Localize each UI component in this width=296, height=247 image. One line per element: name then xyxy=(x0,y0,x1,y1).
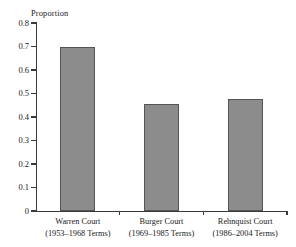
category-terms: (1953–1968 Terms) xyxy=(36,228,120,240)
x-axis-tick xyxy=(119,211,120,215)
x-axis-tick xyxy=(286,211,287,215)
x-axis-tick xyxy=(203,211,204,215)
bar xyxy=(228,99,263,211)
y-axis-tick xyxy=(31,116,36,117)
y-axis-tick xyxy=(31,46,36,47)
y-axis-tick-label: 0.5 xyxy=(3,89,29,98)
category-name: Warren Court xyxy=(36,216,120,228)
bar xyxy=(60,47,95,212)
x-axis-category-label: Rehnquist Court(1986–2004 Terms) xyxy=(203,216,287,239)
y-axis-tick-label: 0.1 xyxy=(3,183,29,192)
y-axis-tick-label: 0.7 xyxy=(3,42,29,51)
y-axis-tick-label: 0.8 xyxy=(3,19,29,28)
category-terms: (1969–1985 Terms) xyxy=(120,228,204,240)
category-name: Rehnquist Court xyxy=(203,216,287,228)
y-axis-tick xyxy=(31,22,36,23)
y-axis-tick-label: 0.2 xyxy=(3,160,29,169)
bar-chart-figure: Proportion 0.80.70.60.50.40.30.20.10 War… xyxy=(0,0,296,247)
y-axis-tick xyxy=(31,140,36,141)
y-axis-tick-label: 0.4 xyxy=(3,113,29,122)
y-axis-line xyxy=(36,22,37,212)
y-axis-tick xyxy=(31,69,36,70)
y-axis-tick-label: 0.6 xyxy=(3,66,29,75)
y-axis-tick-label: 0.3 xyxy=(3,136,29,145)
y-axis-tick xyxy=(31,210,36,211)
y-axis-tick xyxy=(31,93,36,94)
x-axis-category-label: Warren Court(1953–1968 Terms) xyxy=(36,216,120,239)
bar xyxy=(144,104,179,211)
y-axis-tick xyxy=(31,187,36,188)
y-axis-title: Proportion xyxy=(31,8,68,18)
category-name: Burger Court xyxy=(120,216,204,228)
x-axis-category-label: Burger Court(1969–1985 Terms) xyxy=(120,216,204,239)
y-axis-tick xyxy=(31,163,36,164)
category-terms: (1986–2004 Terms) xyxy=(203,228,287,240)
y-axis-tick-label: 0 xyxy=(3,207,29,216)
